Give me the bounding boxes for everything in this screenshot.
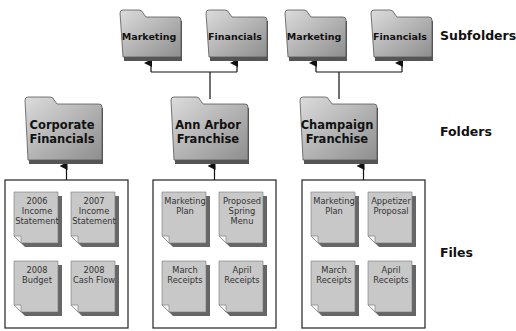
file-label: Plan	[176, 206, 194, 216]
file-label: Marketing	[313, 196, 354, 206]
file-label: Statement	[72, 216, 116, 226]
file-item: 2008Budget	[14, 261, 62, 316]
folder-label: Financials	[29, 132, 94, 146]
file-label: Spring	[229, 206, 256, 216]
subfolder-marketing: Marketing	[120, 10, 182, 61]
file-item: 2007IncomeStatement	[71, 192, 119, 247]
file-item: AprilReceipts	[368, 261, 416, 316]
file-label: Menu	[231, 216, 254, 226]
file-item: MarketingPlan	[162, 192, 210, 247]
file-label: Appetizer	[371, 196, 411, 206]
level-label-folders: Folders	[440, 124, 492, 139]
file-label: March	[172, 265, 197, 275]
file-label: Receipts	[373, 275, 408, 285]
folder-label: Franchise	[177, 132, 240, 146]
folder-corporate-financials: CorporateFinancials	[25, 97, 103, 164]
folder-ann-arbor-franchise: Ann ArborFranchise	[171, 97, 249, 164]
file-label: Receipts	[224, 275, 259, 285]
file-label: Cash Flow	[73, 275, 115, 285]
file-label: April	[382, 265, 401, 275]
folder-label: Corporate	[30, 118, 95, 132]
folder-label: Financials	[208, 31, 262, 42]
subfolder-marketing: Marketing	[285, 10, 347, 61]
folder-label: Marketing	[287, 31, 341, 42]
file-label: 2006	[26, 196, 47, 206]
file-label: Income	[22, 206, 53, 216]
level-label-subfolders: Subfolders	[440, 28, 516, 43]
file-label: Plan	[325, 206, 343, 216]
subfolder-financials: Financials	[206, 10, 268, 61]
file-label: 2008	[83, 265, 104, 275]
folder-champaign-franchise: ChampaignFranchise	[300, 97, 378, 164]
file-item: MarchReceipts	[311, 261, 359, 316]
files-layer: 2006IncomeStatement2007IncomeStatement20…	[5, 180, 425, 328]
file-item: MarchReceipts	[162, 261, 210, 316]
file-label: March	[321, 265, 346, 275]
file-label: Statement	[15, 216, 59, 226]
folder-label: Ann Arbor	[175, 118, 241, 132]
file-label: Receipts	[167, 275, 202, 285]
file-label: Proposal	[373, 206, 408, 216]
file-label: April	[233, 265, 252, 275]
file-item: AprilReceipts	[219, 261, 267, 316]
folders-layer: CorporateFinancialsAnn ArborFranchiseMar…	[25, 10, 433, 164]
file-label: Proposed	[223, 196, 261, 206]
file-item: MarketingPlan	[311, 192, 359, 247]
file-label: Receipts	[316, 275, 351, 285]
file-item: 2006IncomeStatement	[14, 192, 62, 247]
folder-label: Financials	[373, 31, 427, 42]
file-label: 2007	[83, 196, 104, 206]
folder-label: Marketing	[122, 31, 176, 42]
level-label-files: Files	[440, 245, 473, 260]
subfolder-financials: Financials	[371, 10, 433, 61]
file-label: Budget	[22, 275, 53, 285]
file-item: AppetizerProposal	[368, 192, 416, 247]
file-label: Marketing	[164, 196, 205, 206]
folder-label: Franchise	[306, 132, 369, 146]
folder-label: Champaign	[301, 118, 374, 132]
file-item: 2008Cash Flow	[71, 261, 119, 316]
file-item: ProposedSpringMenu	[219, 192, 267, 247]
file-label: Income	[79, 206, 110, 216]
file-label: 2008	[26, 265, 47, 275]
